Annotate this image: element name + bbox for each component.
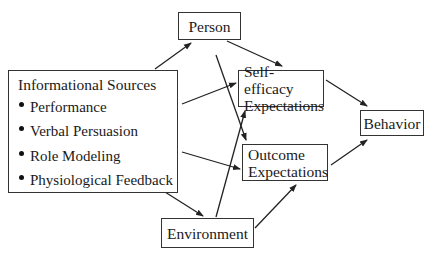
bullet-icon bbox=[19, 126, 24, 131]
list-item: Verbal Persuasion bbox=[19, 123, 138, 139]
self-efficacy-line1: Self-efficacy bbox=[244, 63, 323, 97]
edge-info-selfefficacy bbox=[182, 83, 236, 104]
behavior-box: Behavior bbox=[360, 110, 424, 136]
edge-outcome-behavior bbox=[331, 140, 367, 165]
list-item-label: Role Modeling bbox=[30, 148, 120, 164]
bullet-icon bbox=[19, 151, 24, 156]
edge-selfefficacy-behavior bbox=[326, 80, 367, 106]
bullet-icon bbox=[19, 175, 24, 180]
edge-info-environment bbox=[165, 192, 203, 216]
list-item: Physiological Feedback bbox=[19, 172, 173, 188]
list-item: Performance bbox=[19, 99, 107, 115]
outcome-line1: Outcome bbox=[248, 146, 327, 163]
list-item: Role Modeling bbox=[19, 148, 120, 164]
informational-sources-title: Informational Sources bbox=[18, 76, 156, 93]
self-efficacy-box: Self-efficacy Expectations bbox=[238, 70, 324, 107]
environment-label: Environment bbox=[167, 225, 248, 242]
informational-sources-box: Informational Sources Performance Verbal… bbox=[8, 70, 178, 193]
person-label: Person bbox=[188, 18, 230, 35]
bullet-icon bbox=[19, 102, 24, 107]
list-item-label: Physiological Feedback bbox=[30, 172, 173, 188]
person-box: Person bbox=[178, 12, 241, 40]
self-efficacy-line2: Expectations bbox=[244, 97, 323, 114]
edge-environment-selfefficacy bbox=[216, 111, 245, 217]
outcome-line2: Expectations bbox=[248, 163, 327, 180]
outcome-box: Outcome Expectations bbox=[242, 144, 328, 181]
environment-box: Environment bbox=[161, 218, 254, 248]
edge-info-person bbox=[155, 43, 191, 69]
behavior-label: Behavior bbox=[364, 115, 421, 132]
list-item-label: Performance bbox=[30, 99, 107, 115]
edge-environment-outcome bbox=[255, 185, 296, 228]
list-item-label: Verbal Persuasion bbox=[30, 123, 138, 139]
